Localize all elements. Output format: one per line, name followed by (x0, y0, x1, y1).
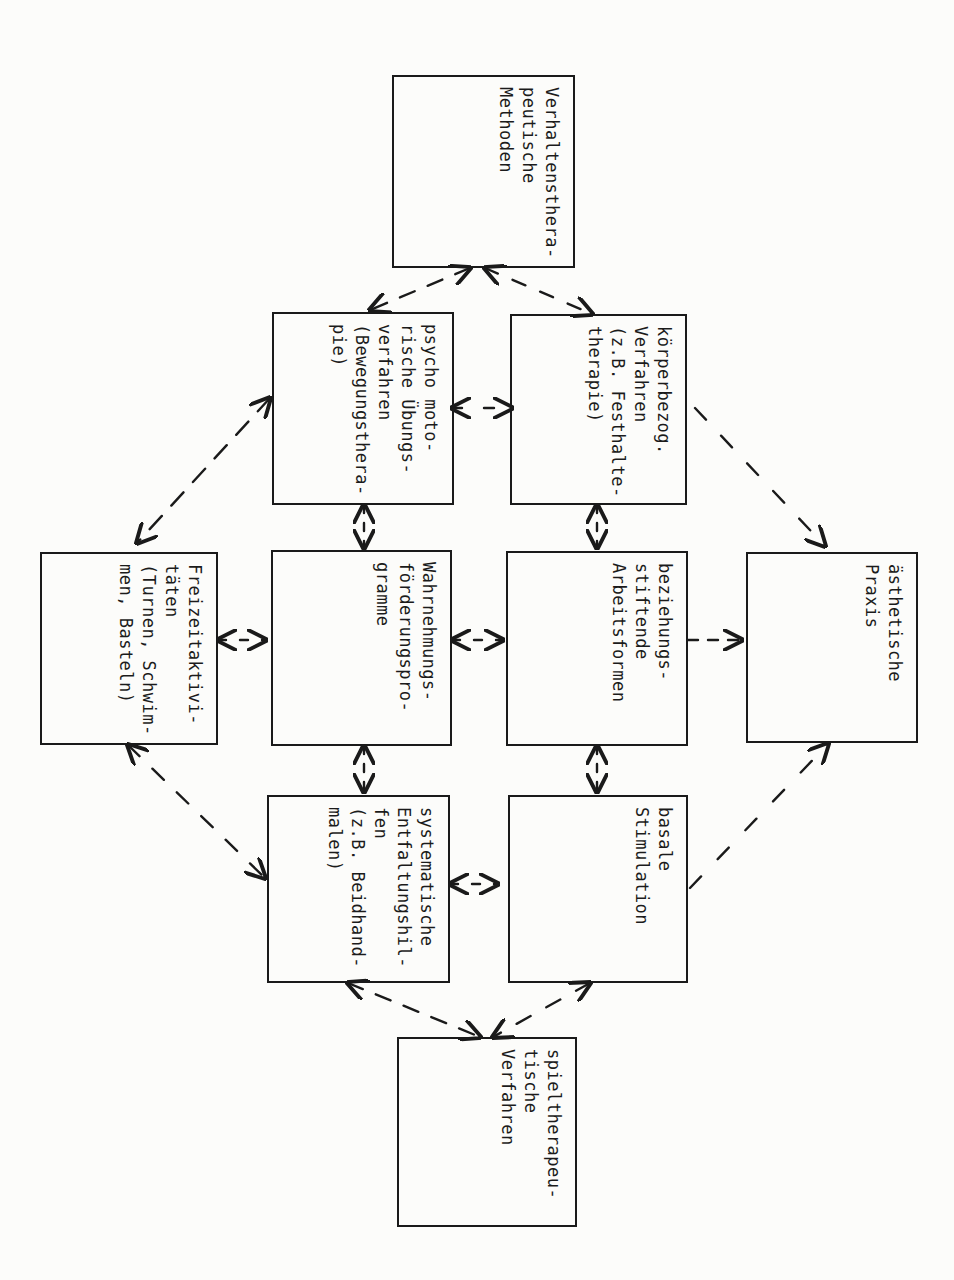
scanned-page: Verhaltensthera- peutische Methoden psyc… (0, 0, 954, 1280)
edge-basale-aesthetisch (690, 744, 828, 888)
edge-freizeit-systematisch (128, 745, 265, 878)
edge-verhalten-psycho (370, 268, 470, 310)
node-beziehungsstiftende-arbeitsformen: beziehungs- stiftende Arbeitsformen (506, 551, 688, 746)
node-wahrnehmungsfoerderungsprogramme: Wahrnehmungs- förderungspro- gramme (271, 550, 452, 746)
edge-koerper-aesthetisch (695, 408, 825, 546)
node-basale-stimulation: basale Stimulation (508, 795, 688, 983)
node-label: spieltherapeu- tische Verfahren (496, 1049, 565, 1199)
node-label: Wahrnehmungs- förderungspro- gramme (371, 562, 440, 712)
node-label: beziehungs- stiftende Arbeitsformen (607, 563, 676, 703)
node-psychomotorische-uebungsverfahren: psycho moto- rische Übungs- verfahren (B… (272, 312, 454, 505)
node-spieltherapeutische-verfahren: spieltherapeu- tische Verfahren (397, 1037, 577, 1227)
node-label: Freizeitaktivi- täten (Turnen, Schwim- m… (114, 564, 206, 736)
node-systematische-entfaltungshilfen: systematische Entfaltungshil- fen (z.B. … (267, 795, 450, 983)
edge-systematisch-spiel (348, 983, 480, 1037)
edge-psycho-freizeit (137, 398, 270, 543)
node-aesthetische-praxis: ästhetische Praxis (746, 552, 918, 743)
node-label: ästhetische Praxis (860, 564, 906, 682)
node-koerperbezogene-verfahren: körperbezog. Verfahren (z.B. Festhalte- … (510, 314, 687, 505)
edge-basale-spiel (493, 983, 590, 1037)
node-label: basale Stimulation (630, 807, 676, 925)
edge-verhalten-koerper (485, 268, 592, 314)
node-freizeitaktivitaeten: Freizeitaktivi- täten (Turnen, Schwim- m… (40, 552, 218, 745)
node-verhaltenstherapeutische-methoden: Verhaltensthera- peutische Methoden (392, 75, 575, 268)
node-label: körperbezog. Verfahren (z.B. Festhalte- … (583, 326, 675, 498)
node-label: systematische Entfaltungshil- fen (z.B. … (323, 807, 438, 968)
node-label: Verhaltensthera- peutische Methoden (494, 87, 563, 259)
node-label: psycho moto- rische Übungs- verfahren (B… (327, 324, 442, 496)
